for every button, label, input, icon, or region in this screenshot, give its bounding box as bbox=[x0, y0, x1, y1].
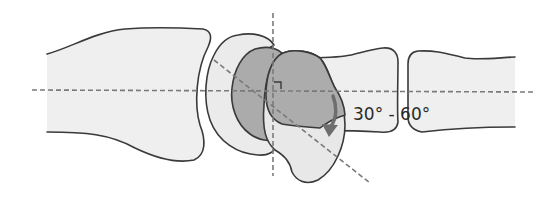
angle-label: 30° - 60° bbox=[353, 104, 430, 124]
proximal-bone bbox=[47, 28, 211, 161]
joint-diagram: 30° - 60° bbox=[0, 0, 553, 197]
